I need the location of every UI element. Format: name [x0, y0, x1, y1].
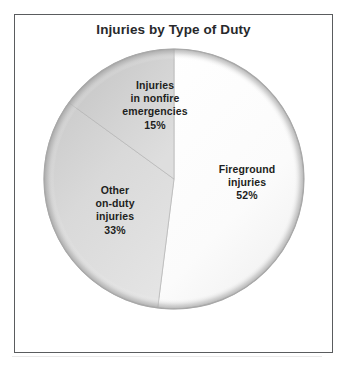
pie-label-line-2: in nonfire	[98, 92, 212, 105]
pie-label-line-1: Fireground	[190, 163, 304, 176]
pie-label-other-on-duty-injuries: Other on-duty injuries 33%	[58, 184, 172, 237]
pie-label-line-1: Injuries	[98, 79, 212, 92]
paper-edge	[12, 356, 322, 357]
pie-label-line-2: injuries	[190, 176, 304, 189]
chart-screenshot: Injuries by Type of Duty	[0, 0, 347, 368]
pie-label-line-1: Other	[58, 184, 172, 197]
pie-label-line-2: on-duty	[58, 197, 172, 210]
pie-label-injuries-in-nonfire-emergencies: Injuries in nonfire emergencies 15%	[98, 79, 212, 132]
pie-label-value: 15%	[98, 119, 212, 132]
pie-label-value: 33%	[58, 224, 172, 237]
pie-label-line-3: emergencies	[98, 105, 212, 118]
chart-title: Injuries by Type of Duty	[15, 22, 332, 37]
pie-label-value: 52%	[190, 189, 304, 202]
pie-label-fireground-injuries: Fireground injuries 52%	[190, 163, 304, 203]
pie-label-line-3: injuries	[58, 210, 172, 223]
